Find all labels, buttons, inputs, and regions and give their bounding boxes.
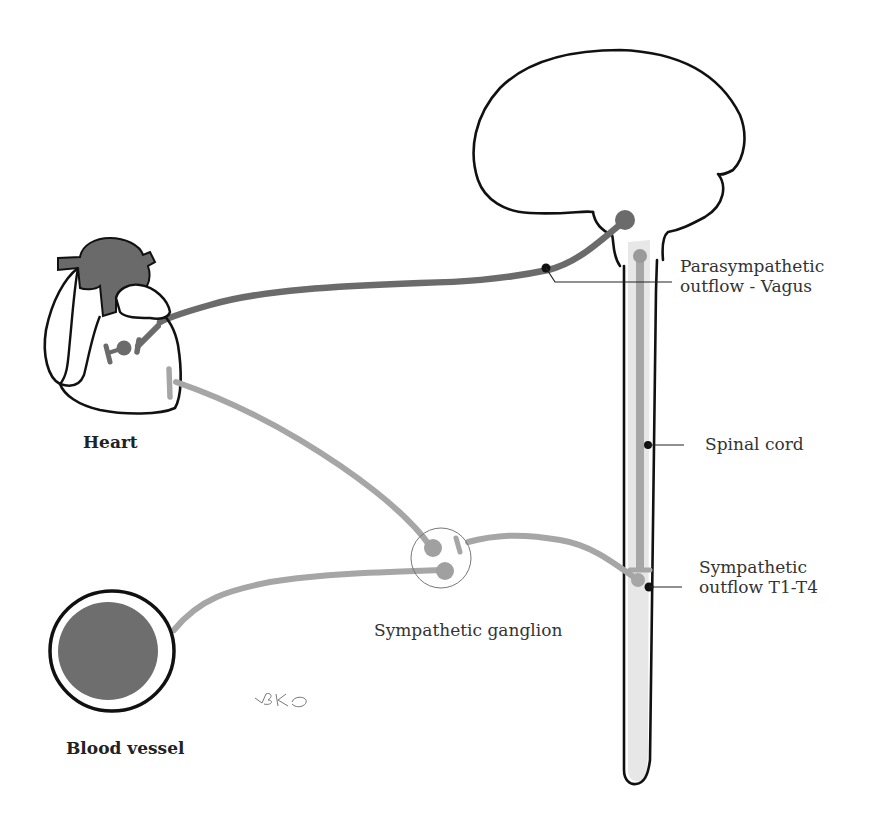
vagus-nerve [137, 210, 672, 352]
blood-vessel-label: Blood vessel [66, 738, 184, 759]
autonomic-diagram: Parasympathetic outflow - Vagus Spinal c… [0, 0, 872, 813]
spinal-cord-label: Spinal cord [705, 434, 804, 455]
heart-label: Heart [83, 432, 138, 453]
sympathetic-fibres [163, 369, 684, 643]
parasympathetic-label-line2: outflow - Vagus [680, 276, 812, 297]
spinal-cord [624, 240, 657, 784]
sympathetic-outflow-label-line2: outflow T1-T4 [699, 577, 818, 598]
blood-vessel [50, 591, 174, 711]
parasympathetic-label-line1: Parasympathetic [680, 256, 824, 277]
signature [255, 693, 306, 706]
sympathetic-outflow-label-line1: Sympathetic [699, 557, 807, 578]
sympathetic-ganglion-label: Sympathetic ganglion [374, 620, 562, 641]
